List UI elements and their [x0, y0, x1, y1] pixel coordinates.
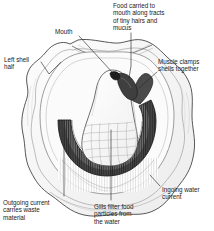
bivalve-anatomy-figure: Food carried to mouth along tracts of ti…	[0, 0, 214, 231]
label-food-tracts: Food carried to mouth along tracts of ti…	[113, 2, 195, 32]
label-ingoing-water: Ingoing water current	[162, 186, 212, 201]
label-gills: Gills filter food particles from the wat…	[94, 203, 158, 225]
label-left-shell: Left shell half	[4, 56, 52, 71]
label-outgoing: Outgoing current carries waste material	[3, 199, 69, 221]
label-mouth: Mouth	[55, 28, 95, 35]
label-muscle: Muscle clamps shells together	[158, 58, 214, 73]
